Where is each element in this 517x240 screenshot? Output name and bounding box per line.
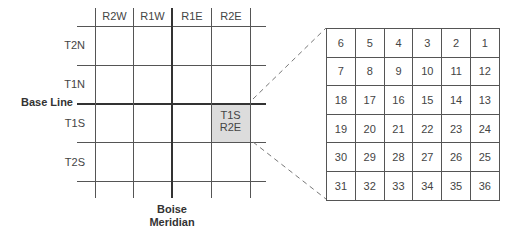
section-cell: 33 [385, 172, 414, 201]
section-cell: 6 [327, 29, 356, 58]
section-cell: 30 [327, 143, 356, 172]
section-cell: 20 [356, 115, 385, 144]
section-cell: 19 [327, 115, 356, 144]
section-cell: 24 [471, 115, 500, 144]
section-cell: 21 [385, 115, 414, 144]
section-cell: 10 [413, 58, 442, 87]
section-cell: 32 [356, 172, 385, 201]
section-cell: 12 [471, 58, 500, 87]
section-cell: 31 [327, 172, 356, 201]
section-cell: 7 [327, 58, 356, 87]
section-cell: 13 [471, 86, 500, 115]
section-cell: 35 [442, 172, 471, 201]
section-cell: 18 [327, 86, 356, 115]
section-grid: 6 5 4 3 2 1 7 8 9 10 11 12 18 17 16 15 1… [326, 28, 500, 201]
section-cell: 9 [385, 58, 414, 87]
section-cell: 14 [442, 86, 471, 115]
section-cell: 3 [413, 29, 442, 58]
section-cell: 25 [471, 143, 500, 172]
section-cell: 15 [413, 86, 442, 115]
section-cell: 8 [356, 58, 385, 87]
section-cell: 27 [413, 143, 442, 172]
section-cell: 36 [471, 172, 500, 201]
section-cell: 11 [442, 58, 471, 87]
section-cell: 34 [413, 172, 442, 201]
section-cell: 1 [471, 29, 500, 58]
section-cell: 28 [385, 143, 414, 172]
section-cell: 29 [356, 143, 385, 172]
section-cell: 16 [385, 86, 414, 115]
section-cell: 4 [385, 29, 414, 58]
section-cell: 23 [442, 115, 471, 144]
section-cell: 17 [356, 86, 385, 115]
section-cell: 22 [413, 115, 442, 144]
section-cell: 2 [442, 29, 471, 58]
section-cell: 26 [442, 143, 471, 172]
section-cell: 5 [356, 29, 385, 58]
